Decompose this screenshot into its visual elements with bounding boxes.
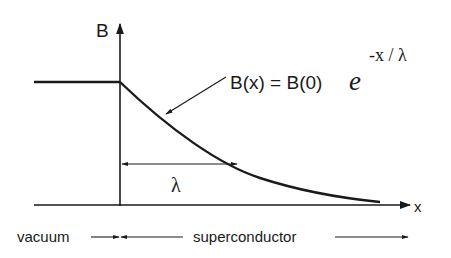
superconductor-label: superconductor	[193, 228, 296, 245]
decay-curve	[120, 82, 380, 202]
equation-exponent: -x / λ	[369, 45, 407, 65]
lambda-label: λ	[171, 174, 181, 196]
equation-base: e	[349, 66, 361, 96]
equation-pointer	[166, 77, 226, 114]
vacuum-label: vacuum	[17, 228, 70, 245]
equation-lhs: B(x) = B(0)	[230, 72, 322, 93]
x-axis-label: x	[414, 198, 422, 215]
diagram-canvas: B x B(x) = B(0) e -x / λ λ vacuum superc…	[0, 0, 451, 258]
y-axis-label: B	[96, 20, 109, 41]
